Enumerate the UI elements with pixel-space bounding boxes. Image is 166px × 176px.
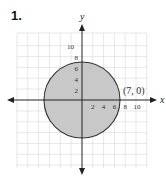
coordinate-plane: 10 8 6 4 2 2 4 6 8 10 y x (7, 0) xyxy=(0,0,166,176)
axes xyxy=(10,27,153,172)
y-axis-label: y xyxy=(79,11,85,22)
arrow-down-icon xyxy=(79,168,85,175)
y-tick-10: 10 xyxy=(67,43,75,51)
arrow-right-icon xyxy=(150,97,157,103)
y-tick-8: 8 xyxy=(75,54,79,62)
x-tick-6: 6 xyxy=(113,103,117,111)
point-label: (7, 0) xyxy=(123,85,145,97)
x-tick-10: 10 xyxy=(134,103,142,111)
y-tick-4: 4 xyxy=(75,76,79,84)
x-tick-8: 8 xyxy=(123,103,127,111)
arrow-left-icon xyxy=(7,97,14,103)
x-tick-4: 4 xyxy=(102,103,106,111)
x-tick-2: 2 xyxy=(91,103,95,111)
y-tick-6: 6 xyxy=(75,65,79,73)
arrow-up-icon xyxy=(79,24,85,31)
x-axis-label: x xyxy=(159,94,165,105)
y-tick-2: 2 xyxy=(75,87,79,95)
